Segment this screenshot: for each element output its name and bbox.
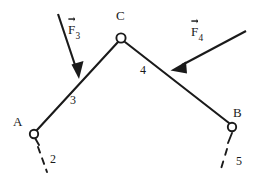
joint-a-label: A [13, 115, 22, 128]
joint-b-label: B [233, 106, 242, 119]
force-f3-symbol: F [68, 23, 75, 36]
member-3-label: 3 [70, 94, 76, 106]
force-f4-label: F 4 [191, 25, 203, 42]
force-f4-vector-group: F [191, 25, 198, 38]
force-f3-label: F 3 [68, 23, 80, 40]
force-f4-subscript: 4 [199, 33, 204, 43]
support-2-dashed-line [38, 147, 47, 172]
joint-b-pin [228, 123, 236, 131]
member-4-label: 4 [140, 64, 146, 76]
support-5-label: 5 [236, 155, 242, 167]
joint-c-pin [116, 33, 125, 42]
force-f3-vector-group: F [68, 23, 75, 36]
force-f4-symbol: F [191, 25, 198, 38]
force-f3-arrow-head [72, 61, 84, 79]
member-3-line [37, 42, 118, 130]
diagram-canvas [0, 0, 262, 182]
joint-c-label: C [116, 9, 125, 22]
support-5-dashed-line [220, 149, 227, 172]
support-5-stub [228, 133, 232, 143]
truss-diagram: A C B 3 4 2 5 F 3 F 4 [0, 0, 262, 182]
force-f3-subscript: 3 [76, 31, 81, 41]
joint-a-pin [30, 130, 38, 138]
support-2-stub [35, 138, 39, 145]
force-f4-arrow-head [171, 62, 188, 74]
support-2-label: 2 [50, 153, 56, 165]
member-4-line [125, 42, 229, 123]
